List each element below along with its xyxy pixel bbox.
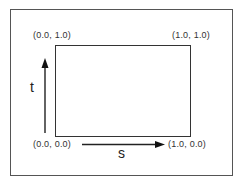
up-arrow-icon (42, 58, 49, 133)
axis-arrows (0, 0, 244, 185)
right-arrow-icon (82, 141, 165, 148)
